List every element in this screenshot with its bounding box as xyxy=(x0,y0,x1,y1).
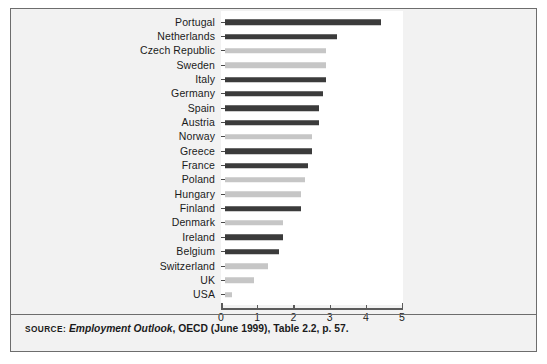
x-axis-tick xyxy=(330,305,331,310)
bar xyxy=(225,34,337,40)
bar-row: Poland xyxy=(11,173,536,187)
bar xyxy=(225,278,254,284)
bar-category-label: Norway xyxy=(11,131,221,142)
bar-cell xyxy=(225,72,536,86)
bar xyxy=(225,120,319,126)
bar-row: USA xyxy=(11,288,536,302)
bar-row: Czech Republic xyxy=(11,44,536,58)
figure-frame: PortugalNetherlandsCzech RepublicSwedenI… xyxy=(10,8,537,352)
bar-cell xyxy=(225,173,536,187)
x-axis-tick xyxy=(293,305,294,310)
bar-row: Norway xyxy=(11,130,536,144)
x-axis-cap-left xyxy=(221,303,223,309)
source-prefix: SOURCE: xyxy=(25,324,66,334)
bar-category-label: Austria xyxy=(11,117,221,128)
bar-row: Switzerland xyxy=(11,259,536,273)
source-note: SOURCE: Employment Outlook, OECD (June 1… xyxy=(25,322,349,336)
bar xyxy=(225,149,312,155)
bar-category-label: Ireland xyxy=(11,232,221,243)
bar-row: Sweden xyxy=(11,58,536,72)
source-divider xyxy=(11,314,536,315)
bar-category-label: Belgium xyxy=(11,246,221,257)
x-axis-tick xyxy=(257,305,258,310)
bar xyxy=(225,263,268,269)
bar-category-label: Czech Republic xyxy=(11,45,221,56)
bar-row: France xyxy=(11,158,536,172)
bar-row: Spain xyxy=(11,101,536,115)
bar-row: Finland xyxy=(11,201,536,215)
bar-category-label: France xyxy=(11,160,221,171)
bar-cell xyxy=(225,15,536,29)
bar-category-label: USA xyxy=(11,289,221,300)
bar xyxy=(225,134,312,140)
bar-cell xyxy=(225,259,536,273)
bar-cell xyxy=(225,101,536,115)
bar-cell xyxy=(225,58,536,72)
bar-cell xyxy=(225,201,536,215)
bar-cell xyxy=(225,216,536,230)
x-axis-cap-right xyxy=(402,303,404,309)
bar xyxy=(225,292,232,298)
bar xyxy=(225,91,323,97)
bar xyxy=(225,206,301,212)
bar-category-label: Italy xyxy=(11,74,221,85)
chart-plot-region: PortugalNetherlandsCzech RepublicSwedenI… xyxy=(11,9,536,306)
bar-cell xyxy=(225,130,536,144)
bar-cell xyxy=(225,115,536,129)
bar xyxy=(225,48,326,54)
bar-row: Italy xyxy=(11,72,536,86)
bar xyxy=(225,77,326,83)
bar-cell xyxy=(225,158,536,172)
bar-category-label: Germany xyxy=(11,88,221,99)
x-axis-tick-label: 5 xyxy=(399,311,405,323)
bar-row: Greece xyxy=(11,144,536,158)
bar-row: Belgium xyxy=(11,245,536,259)
bar xyxy=(225,177,305,183)
bar-row: Denmark xyxy=(11,216,536,230)
bar-cell xyxy=(225,273,536,287)
bar-category-label: Spain xyxy=(11,103,221,114)
bar xyxy=(225,62,326,68)
bar xyxy=(225,192,301,198)
bar-row: Portugal xyxy=(11,15,536,29)
x-axis-tick-label: 4 xyxy=(363,311,369,323)
bar-category-label: Poland xyxy=(11,174,221,185)
bar-category-label: Sweden xyxy=(11,60,221,71)
bar-category-label: Hungary xyxy=(11,189,221,200)
bar-category-label: Netherlands xyxy=(11,31,221,42)
bar-cell xyxy=(225,245,536,259)
bar-category-label: Portugal xyxy=(11,17,221,28)
bar-category-label: Finland xyxy=(11,203,221,214)
bar-category-label: Switzerland xyxy=(11,261,221,272)
bar-cell xyxy=(225,29,536,43)
bar xyxy=(225,163,308,169)
bar-category-label: UK xyxy=(11,275,221,286)
bar-cell xyxy=(225,87,536,101)
source-rest: , OECD (June 1999), Table 2.2, p. 57. xyxy=(173,323,349,334)
bar-cell xyxy=(225,144,536,158)
bar-cell xyxy=(225,187,536,201)
x-axis-line xyxy=(221,308,403,310)
bar xyxy=(225,249,279,255)
bar-cell xyxy=(225,230,536,244)
bar-category-label: Greece xyxy=(11,146,221,157)
bar-cell xyxy=(225,44,536,58)
bar-row: Ireland xyxy=(11,230,536,244)
bar-row: Hungary xyxy=(11,187,536,201)
bar-row: Netherlands xyxy=(11,29,536,43)
source-publication: Employment Outlook xyxy=(69,323,173,334)
bar-row: Austria xyxy=(11,115,536,129)
bar xyxy=(225,220,283,226)
x-axis-tick xyxy=(366,305,367,310)
bar xyxy=(225,235,283,241)
bar-row: UK xyxy=(11,273,536,287)
bar xyxy=(225,19,381,25)
bar-cell xyxy=(225,288,536,302)
bar-row: Germany xyxy=(11,87,536,101)
bar xyxy=(225,105,319,111)
bar-rows: PortugalNetherlandsCzech RepublicSwedenI… xyxy=(11,15,536,302)
bar-category-label: Denmark xyxy=(11,217,221,228)
